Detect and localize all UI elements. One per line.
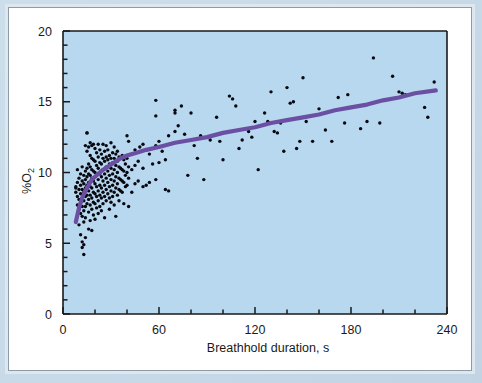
data-point	[109, 201, 112, 204]
data-point	[263, 111, 266, 114]
data-point	[164, 188, 167, 191]
data-point	[85, 202, 88, 205]
data-point	[101, 191, 104, 194]
data-point	[76, 168, 79, 171]
data-point	[105, 176, 108, 179]
data-point	[114, 175, 117, 178]
data-point	[117, 199, 120, 202]
data-point	[337, 96, 340, 99]
data-point	[127, 176, 130, 179]
data-point	[98, 148, 101, 151]
data-point	[109, 141, 112, 144]
data-point	[87, 198, 90, 201]
data-point	[82, 182, 85, 185]
data-point	[269, 90, 272, 93]
data-point	[273, 130, 276, 133]
data-point	[105, 188, 108, 191]
data-point	[82, 220, 85, 223]
data-point	[113, 203, 116, 206]
data-point	[81, 215, 84, 218]
data-point	[154, 99, 157, 102]
data-point	[183, 133, 186, 136]
data-point	[311, 140, 314, 143]
data-point	[237, 147, 240, 150]
data-point	[89, 203, 92, 206]
data-point	[87, 145, 90, 148]
data-point	[105, 199, 108, 202]
data-point	[97, 178, 100, 181]
data-point	[122, 181, 125, 184]
data-point	[209, 138, 212, 141]
data-point	[108, 196, 111, 199]
y-axis-title-group: %O2	[20, 168, 36, 194]
data-point	[85, 175, 88, 178]
x-tick-label: 120	[245, 323, 266, 337]
data-point	[359, 127, 362, 130]
data-point	[378, 121, 381, 124]
data-point	[85, 150, 88, 153]
data-point	[127, 140, 130, 143]
data-point	[164, 158, 167, 161]
data-point	[87, 227, 90, 230]
data-point	[202, 178, 205, 181]
data-point	[133, 164, 136, 167]
data-point	[426, 116, 429, 119]
data-point	[82, 253, 85, 256]
data-point	[148, 181, 151, 184]
plot-area-background	[63, 31, 447, 314]
data-point	[423, 106, 426, 109]
data-point	[84, 144, 87, 147]
data-point	[124, 162, 127, 165]
data-point	[89, 141, 92, 144]
data-point	[77, 188, 80, 191]
data-point	[196, 157, 199, 160]
data-point	[92, 143, 95, 146]
data-point	[97, 212, 100, 215]
x-axis-title: Breathhold duration, s	[207, 341, 329, 355]
data-point	[305, 120, 308, 123]
data-point	[130, 191, 133, 194]
data-point	[79, 233, 82, 236]
data-point	[317, 107, 320, 110]
data-point	[127, 165, 130, 168]
data-point	[106, 192, 109, 195]
data-point	[82, 209, 85, 212]
y-axis-title: %O2	[20, 168, 36, 194]
data-point	[93, 202, 96, 205]
y-tick-label: 0	[45, 308, 52, 322]
data-point	[122, 169, 125, 172]
data-point	[133, 182, 136, 185]
data-point	[97, 189, 100, 192]
data-point	[137, 179, 140, 182]
data-point	[108, 185, 111, 188]
data-point	[173, 130, 176, 133]
data-point	[77, 176, 80, 179]
data-point	[100, 152, 103, 155]
data-point	[157, 140, 160, 143]
data-point	[74, 191, 77, 194]
data-point	[433, 80, 436, 83]
data-point	[121, 191, 124, 194]
data-point	[103, 159, 106, 162]
data-point	[97, 199, 100, 202]
data-point	[157, 161, 160, 164]
data-point	[173, 109, 176, 112]
data-point	[285, 86, 288, 89]
scatter-chart: 06012018024005101520 Breathhold duration…	[9, 8, 471, 370]
figure-page-background: 06012018024005101520 Breathhold duration…	[0, 0, 482, 383]
data-point	[97, 167, 100, 170]
data-point	[116, 150, 119, 153]
data-point	[218, 140, 221, 143]
data-point	[145, 184, 148, 187]
data-point	[85, 131, 88, 134]
data-point	[95, 185, 98, 188]
x-tick-label: 0	[60, 323, 67, 337]
data-point	[116, 182, 119, 185]
data-point	[127, 205, 130, 208]
data-point	[114, 186, 117, 189]
data-point	[92, 213, 95, 216]
data-point	[116, 171, 119, 174]
data-point	[79, 172, 82, 175]
data-point	[103, 184, 106, 187]
data-point	[93, 147, 96, 150]
